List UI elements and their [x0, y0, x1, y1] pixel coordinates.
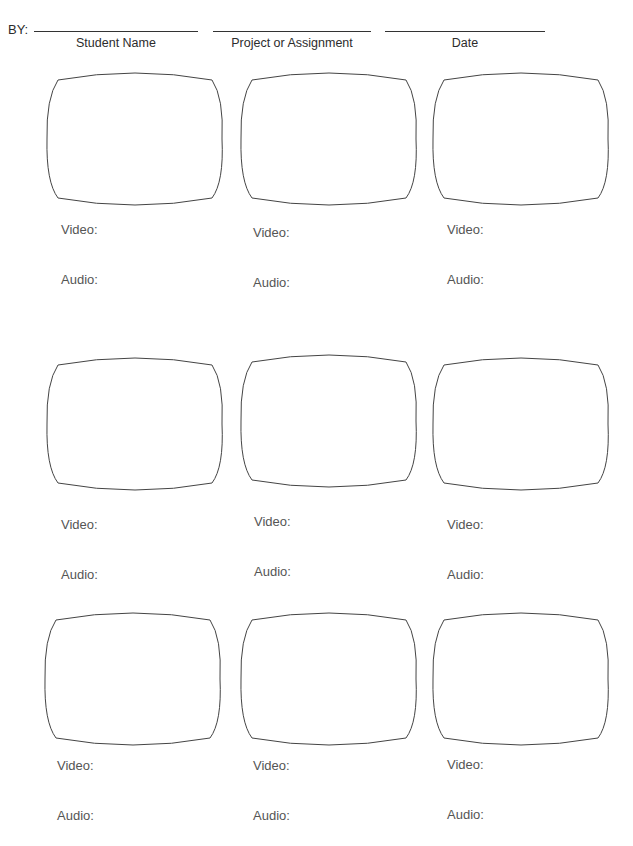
storyboard-frame-8[interactable] — [240, 612, 418, 747]
video-label-8: Video: — [253, 758, 290, 773]
video-label-1: Video: — [61, 222, 98, 237]
header: BY: Student Name Project or Assignment D… — [0, 0, 633, 60]
project-line — [213, 31, 371, 32]
date-line — [385, 31, 545, 32]
storyboard-frame-3[interactable] — [432, 72, 610, 207]
student-name-caption: Student Name — [34, 36, 198, 50]
student-name-field[interactable]: Student Name — [34, 27, 198, 51]
audio-label-9: Audio: — [447, 807, 484, 822]
video-label-9: Video: — [447, 757, 484, 772]
storyboard-frame-1[interactable] — [46, 72, 224, 207]
project-caption: Project or Assignment — [213, 36, 371, 50]
video-label-7: Video: — [57, 758, 94, 773]
date-field[interactable]: Date — [385, 27, 545, 51]
audio-label-1: Audio: — [61, 272, 98, 287]
storyboard-frame-2[interactable] — [240, 72, 418, 207]
storyboard-frame-4[interactable] — [46, 357, 224, 492]
audio-label-3: Audio: — [447, 272, 484, 287]
date-caption: Date — [385, 36, 545, 50]
audio-label-8: Audio: — [253, 808, 290, 823]
audio-label-5: Audio: — [254, 564, 291, 579]
storyboard-frame-5[interactable] — [240, 354, 418, 489]
project-field[interactable]: Project or Assignment — [213, 27, 371, 51]
video-label-6: Video: — [447, 517, 484, 532]
audio-label-7: Audio: — [57, 808, 94, 823]
audio-label-2: Audio: — [253, 275, 290, 290]
audio-label-6: Audio: — [447, 567, 484, 582]
student-name-line — [34, 31, 198, 32]
storyboard-frame-6[interactable] — [432, 357, 610, 492]
video-label-5: Video: — [254, 514, 291, 529]
storyboard-frame-9[interactable] — [432, 612, 610, 747]
video-label-3: Video: — [447, 222, 484, 237]
video-label-2: Video: — [253, 225, 290, 240]
video-label-4: Video: — [61, 517, 98, 532]
by-label: BY: — [8, 22, 28, 37]
storyboard-frame-7[interactable] — [44, 612, 222, 747]
audio-label-4: Audio: — [61, 567, 98, 582]
